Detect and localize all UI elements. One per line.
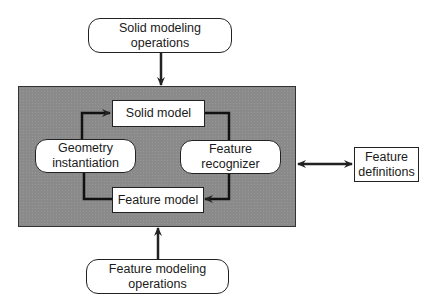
node-geometry-instantiation: Geometry instantiation [35, 139, 136, 173]
label: Feature model [118, 193, 199, 208]
label-line1: Feature [201, 142, 259, 157]
node-solid-modeling-operations: Solid modeling operations [88, 18, 232, 53]
label-line1: Geometry [52, 141, 119, 156]
node-solid-model: Solid model [112, 100, 205, 127]
line-feature-model-to-geometry [84, 172, 112, 199]
label-line1: Feature modeling [109, 262, 206, 277]
arrow-geometry-to-solid-model [82, 113, 110, 139]
label-line2: operations [109, 277, 206, 292]
label-line1: Feature [358, 150, 414, 165]
label: Solid model [126, 106, 191, 121]
label-line2: instantiation [52, 156, 119, 171]
label-line1: Solid modeling [119, 21, 201, 36]
arrow-recognizer-to-feature-model [205, 173, 229, 199]
node-feature-modeling-operations: Feature modeling operations [86, 259, 229, 294]
line-solid-model-to-recognizer [204, 113, 229, 140]
label-line2: recognizer [201, 157, 259, 172]
node-feature-definitions: Feature definitions [354, 147, 419, 182]
label-line2: definitions [358, 165, 414, 180]
node-feature-model: Feature model [112, 187, 204, 213]
label-line2: operations [119, 36, 201, 51]
node-feature-recognizer: Feature recognizer [180, 140, 281, 174]
